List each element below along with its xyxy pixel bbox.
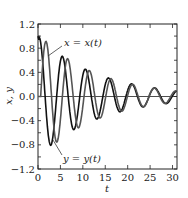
series-y	[38, 42, 177, 143]
y-tick-label: 0.8	[19, 43, 35, 54]
y-axis-label: x, y	[3, 87, 14, 105]
x-tick-label: 0	[35, 172, 41, 183]
svg-text:x = x(t): x = x(t)	[64, 37, 102, 48]
series-lines	[38, 36, 177, 145]
svg-text:y = y(t): y = y(t)	[62, 153, 101, 164]
svg-text:x, y: x, y	[3, 87, 14, 105]
y-tick-label: −0.4	[11, 115, 35, 126]
x-tick-label: 25	[144, 172, 157, 183]
x-tick-label: 20	[121, 172, 134, 183]
x-tick-label: 10	[76, 172, 89, 183]
annotation-y: y = y(t)	[53, 140, 101, 164]
annotation-x: x = x(t)	[48, 37, 102, 56]
x-tick-label: 15	[99, 172, 112, 183]
x-axis-label: t	[105, 183, 110, 194]
y-tick-label: 1.2	[19, 19, 35, 30]
plot-frame	[38, 24, 177, 169]
x-tick-label: 30	[166, 172, 179, 183]
y-tick-label: 0.4	[19, 67, 35, 78]
y-tick-label: −1.2	[11, 164, 35, 175]
y-tick-label: 0.0	[19, 91, 35, 102]
svg-text:t: t	[105, 183, 110, 194]
chart: 0510152025301.20.80.40.0−0.4−0.8−1.2 t x…	[0, 0, 188, 198]
x-tick-label: 5	[57, 172, 63, 183]
y-tick-label: −0.8	[11, 139, 35, 150]
